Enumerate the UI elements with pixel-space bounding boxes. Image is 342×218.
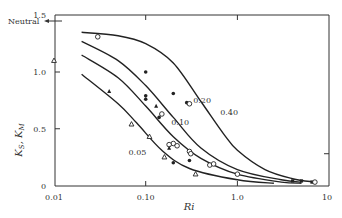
curve-0.40 (82, 32, 315, 182)
neutral-annotation: Neutral (8, 17, 62, 26)
marker-triangle-open (52, 58, 57, 62)
marker-circle-filled (144, 97, 148, 101)
marker-circle-open (211, 162, 216, 167)
marker-circle-open (313, 180, 318, 185)
curve-0.05 (82, 74, 274, 183)
curve-label: 0.10 (171, 118, 189, 127)
data-markers (52, 35, 318, 185)
y-axis-label: KS, KM (13, 123, 26, 158)
marker-circle-filled (144, 94, 148, 98)
chart: 0.010.101.01000.51.01.5 0.400.200.100.05… (0, 0, 342, 218)
marker-triangle-open (193, 172, 198, 176)
curve-0.10 (82, 55, 302, 183)
marker-circle-filled (188, 159, 192, 163)
neutral-label: Neutral (8, 17, 40, 26)
curve-label: 0.20 (193, 96, 211, 105)
marker-circle-open (175, 143, 180, 148)
x-tick-label: 1.0 (231, 193, 244, 202)
curves (82, 32, 315, 183)
marker-square-filled (291, 179, 294, 182)
plot-frame (55, 15, 329, 186)
marker-circle-filled (172, 92, 176, 96)
marker-square-filled (300, 179, 303, 182)
marker-circle-open (187, 101, 192, 106)
marker-circle-open (95, 35, 100, 40)
y-tick-label: 0 (41, 182, 46, 191)
marker-circle-filled (172, 161, 176, 165)
marker-circle-filled (157, 116, 161, 120)
marker-circle-filled (144, 70, 148, 74)
marker-circle-open (160, 112, 165, 117)
curve-label: 0.05 (129, 148, 147, 157)
marker-circle-open (188, 151, 193, 156)
marker-triangle-open (162, 155, 167, 159)
x-tick-label: 10 (322, 193, 332, 202)
x-axis-label: Ri (183, 201, 195, 212)
curve-0.20 (82, 41, 302, 182)
axis-ticks: 0.010.101.01000.51.01.5 (33, 11, 332, 202)
curve-label: 0.40 (220, 108, 238, 117)
x-tick-label: 0.01 (45, 193, 63, 202)
marker-triangle-filled (107, 89, 111, 93)
marker-circle-open (235, 172, 240, 177)
y-tick-label: 1.0 (33, 68, 46, 77)
marker-triangle-filled (154, 104, 158, 108)
y-tick-label: 0.5 (33, 125, 46, 134)
x-tick-label: 0.10 (137, 193, 155, 202)
marker-triangle-open (129, 122, 134, 126)
